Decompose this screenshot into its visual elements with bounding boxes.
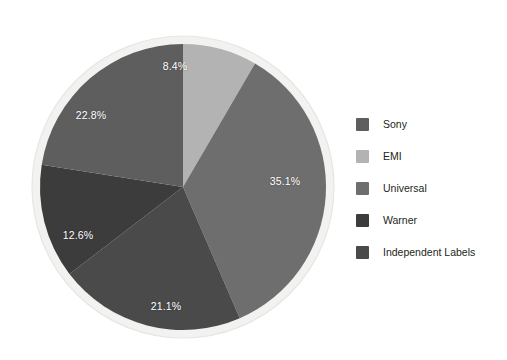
legend-label-sony: Sony bbox=[383, 119, 407, 130]
legend-item-sony[interactable]: Sony bbox=[356, 108, 506, 140]
pie-chart-figure: 8.4%35.1%21.1%12.6%22.8% SonyEMIUniversa… bbox=[0, 0, 507, 360]
legend-label-warner: Warner bbox=[383, 215, 417, 226]
legend-label-universal: Universal bbox=[383, 183, 427, 194]
legend-swatch-independent-labels bbox=[356, 246, 369, 259]
legend-item-warner[interactable]: Warner bbox=[356, 204, 506, 236]
legend-label-emi: EMI bbox=[383, 151, 402, 162]
pie-chart-plot-area: 8.4%35.1%21.1%12.6%22.8% bbox=[30, 34, 336, 340]
legend-swatch-warner bbox=[356, 214, 369, 227]
legend-swatch-emi bbox=[356, 150, 369, 163]
legend-item-emi[interactable]: EMI bbox=[356, 140, 506, 172]
chart-legend: SonyEMIUniversalWarnerIndependent Labels bbox=[356, 108, 506, 268]
pie-slices-svg bbox=[30, 34, 336, 340]
legend-swatch-universal bbox=[356, 182, 369, 195]
legend-label-independent-labels: Independent Labels bbox=[383, 247, 475, 258]
legend-item-universal[interactable]: Universal bbox=[356, 172, 506, 204]
legend-swatch-sony bbox=[356, 118, 369, 131]
pie-slice-sony[interactable] bbox=[42, 44, 183, 187]
pie-slice-group bbox=[40, 44, 326, 330]
legend-item-independent-labels[interactable]: Independent Labels bbox=[356, 236, 506, 268]
